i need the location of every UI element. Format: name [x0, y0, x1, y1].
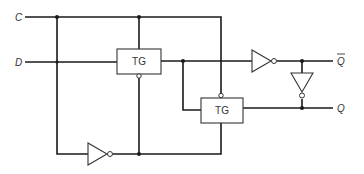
wire-node-to-tg2: [183, 61, 201, 110]
wire-c-left-branch: [57, 17, 88, 154]
tg1-inverting-bubble: [137, 74, 141, 78]
output-label-qbar: Q: [337, 56, 345, 67]
tg2-inverting-bubble: [219, 93, 223, 97]
inverter-feedback: [291, 73, 313, 98]
latch-schematic: TG TG C D Q Q: [0, 0, 364, 174]
inverter-forward: [252, 50, 277, 72]
output-label-q: Q: [337, 103, 345, 114]
tg2-label: TG: [215, 105, 229, 116]
wire-cbar: [113, 123, 221, 154]
tg1-label: TG: [132, 56, 146, 67]
input-label-d: D: [15, 57, 22, 68]
transmission-gate-2: TG: [201, 93, 243, 123]
input-label-c: C: [15, 12, 23, 23]
inverter-clock: [88, 143, 113, 165]
transmission-gate-1: TG: [117, 49, 161, 78]
junction-dots: [55, 15, 304, 156]
